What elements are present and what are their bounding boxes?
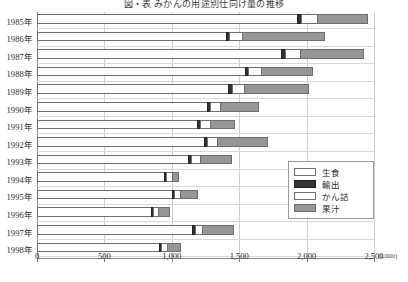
bar-row: 1989年 [37, 82, 374, 100]
bar-segment-fresh[interactable] [37, 67, 245, 77]
bar-segment-juice[interactable] [180, 190, 198, 200]
stacked-bar[interactable] [37, 137, 268, 147]
x-axis-tick-label: 2,000 [297, 251, 316, 261]
stacked-bar[interactable] [37, 120, 235, 130]
bar-segment-fresh[interactable] [37, 84, 228, 94]
x-axis-tick-label: 500 [98, 251, 111, 261]
x-axis-unit-label: (1,000t) [378, 253, 397, 259]
y-axis-category-label: 1997年 [7, 226, 34, 238]
bar-row: 1997年 [37, 223, 374, 241]
stacked-bar[interactable] [37, 14, 368, 24]
bar-segment-fresh[interactable] [37, 14, 297, 24]
bar-row: 1987年 [37, 47, 374, 65]
legend-item-export[interactable]: 輸出 [294, 178, 368, 190]
bar-segment-fresh[interactable] [37, 32, 226, 42]
legend-item-juice[interactable]: 果汁 [294, 202, 368, 214]
bar-row: 1986年 [37, 30, 374, 48]
stacked-bar[interactable] [37, 49, 364, 59]
bar-segment-fresh[interactable] [37, 120, 197, 130]
stacked-bar[interactable] [37, 84, 309, 94]
bar-segment-juice[interactable] [242, 32, 326, 42]
y-axis-category-label: 1988年 [7, 67, 34, 79]
bar-segment-fresh[interactable] [37, 137, 204, 147]
y-axis-category-label: 1995年 [7, 190, 34, 202]
bar-segment-canned[interactable] [232, 84, 244, 94]
plot-area: 1985年1986年1987年1988年1989年1990年1991年1992年… [37, 12, 374, 258]
legend-label: 輸出 [322, 178, 340, 190]
stacked-bar[interactable] [37, 155, 232, 165]
x-axis-tick-label: 1,000 [162, 251, 181, 261]
bar-segment-canned[interactable] [229, 32, 241, 42]
y-axis-category-label: 1991年 [7, 120, 34, 132]
y-axis-category-label: 1989年 [7, 85, 34, 97]
chart-legend: 生食輸出かん詰果汁 [288, 161, 374, 219]
bar-segment-juice[interactable] [300, 49, 364, 59]
bar-segment-fresh[interactable] [37, 207, 151, 217]
y-axis-category-label: 1987年 [7, 50, 34, 62]
bar-segment-canned[interactable] [200, 120, 209, 130]
bar-segment-fresh[interactable] [37, 102, 207, 112]
bar-segment-fresh[interactable] [37, 225, 192, 235]
bar-segment-juice[interactable] [220, 102, 259, 112]
bar-segment-juice[interactable] [210, 120, 235, 130]
stacked-bar[interactable] [37, 225, 234, 235]
legend-swatch-export [294, 180, 316, 188]
bar-row: 1991年 [37, 117, 374, 135]
bar-segment-canned[interactable] [248, 67, 260, 77]
x-axis-line [37, 258, 374, 259]
stacked-bar[interactable] [37, 172, 179, 182]
legend-item-fresh[interactable]: 生食 [294, 166, 368, 178]
stacked-bar[interactable] [37, 32, 325, 42]
bar-row: 1985年 [37, 12, 374, 30]
y-axis-category-label: 1993年 [7, 155, 34, 167]
bar-segment-juice[interactable] [317, 14, 368, 24]
chart-container: 図・表 みかんの用途別仕向け量の推移 1985年1986年1987年1988年1… [0, 0, 408, 282]
y-axis-category-label: 1992年 [7, 138, 34, 150]
stacked-bar[interactable] [37, 102, 259, 112]
y-axis-category-label: 1990年 [7, 103, 34, 115]
bar-segment-canned[interactable] [207, 137, 217, 147]
bar-segment-canned[interactable] [210, 102, 220, 112]
bar-segment-canned[interactable] [301, 14, 317, 24]
bar-segment-juice[interactable] [261, 67, 314, 77]
legend-item-canned[interactable]: かん詰 [294, 190, 368, 202]
legend-label: かん詰 [322, 190, 350, 202]
legend-swatch-juice [294, 204, 316, 212]
bar-segment-juice[interactable] [217, 137, 268, 147]
bar-segment-juice[interactable] [244, 84, 309, 94]
bar-row: 1992年 [37, 135, 374, 153]
bar-segment-fresh[interactable] [37, 172, 164, 182]
bar-row: 1990年 [37, 100, 374, 118]
y-axis-category-label: 1986年 [7, 32, 34, 44]
stacked-bar[interactable] [37, 67, 313, 77]
bar-segment-juice[interactable] [158, 207, 170, 217]
bar-segment-juice[interactable] [202, 225, 234, 235]
bar-segment-fresh[interactable] [37, 155, 188, 165]
bar-row: 1998年 [37, 240, 374, 258]
legend-label: 生食 [322, 166, 340, 178]
bar-segment-canned[interactable] [285, 49, 300, 59]
legend-swatch-fresh [294, 168, 316, 176]
bar-row: 1988年 [37, 65, 374, 83]
x-axis-tick-label: 1,500 [230, 251, 249, 261]
bar-segment-fresh[interactable] [37, 190, 172, 200]
chart-title: 図・表 みかんの用途別仕向け量の推移 [0, 0, 408, 8]
bar-segment-juice[interactable] [200, 155, 232, 165]
x-axis-tick-label: 0 [35, 251, 39, 261]
stacked-bar[interactable] [37, 190, 198, 200]
legend-label: 果汁 [322, 202, 340, 214]
bar-segment-juice[interactable] [172, 172, 179, 182]
bar-segment-canned[interactable] [195, 225, 202, 235]
bar-segment-canned[interactable] [191, 155, 200, 165]
gridline [374, 12, 375, 258]
y-axis-category-label: 1985年 [7, 15, 34, 27]
bar-segment-fresh[interactable] [37, 49, 281, 59]
y-axis-category-label: 1996年 [7, 208, 34, 220]
stacked-bar[interactable] [37, 207, 170, 217]
legend-swatch-canned [294, 192, 316, 200]
y-axis-category-label: 1994年 [7, 173, 34, 185]
y-axis-category-label: 1998年 [7, 243, 34, 255]
